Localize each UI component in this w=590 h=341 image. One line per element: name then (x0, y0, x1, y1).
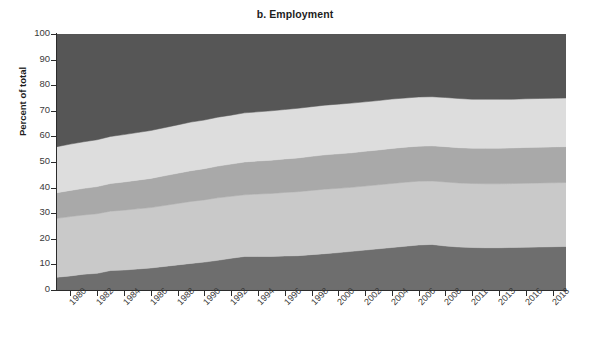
stacked-area-svg (57, 34, 566, 290)
y-tick-label: 80 (16, 78, 50, 89)
y-tick-label: 40 (16, 181, 50, 192)
y-tick-label: 20 (16, 232, 50, 243)
y-tick-label: 70 (16, 104, 50, 115)
y-tick-label: 50 (16, 155, 50, 166)
y-axis-ticks: 1009080706050403020100 (0, 0, 50, 341)
plot-area (57, 34, 566, 290)
y-axis-line (56, 33, 57, 291)
y-tick-label: 100 (16, 27, 50, 38)
y-tick-label: 10 (16, 257, 50, 268)
chart-title: b. Employment (0, 8, 590, 20)
y-tick-label: 60 (16, 129, 50, 140)
y-tick-label: 90 (16, 53, 50, 64)
y-tick-label: 0 (16, 283, 50, 294)
employment-stacked-area-chart: b. Employment Percent of total 100908070… (0, 0, 590, 341)
y-tick-label: 30 (16, 206, 50, 217)
